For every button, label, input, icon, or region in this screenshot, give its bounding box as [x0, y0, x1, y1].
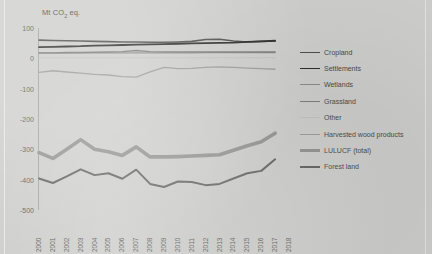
x-tick-2000: 2000	[35, 238, 42, 252]
chart-legend: CroplandSettlementsWetlandsGrasslandOthe…	[300, 44, 432, 175]
series-line-forest-land	[39, 159, 275, 187]
x-tick-2013: 2013	[216, 238, 223, 252]
series-line-lulucf-total	[39, 133, 275, 158]
x-tick-2007: 2007	[132, 238, 139, 252]
x-tick-2009: 2009	[160, 238, 167, 252]
x-tick-2018: 2018	[285, 238, 292, 252]
x-tick-2010: 2010	[174, 238, 181, 252]
legend-swatch-icon	[300, 101, 320, 102]
x-tick-2011: 2011	[188, 238, 195, 252]
legend-item-wetlands[interactable]: Wetlands	[300, 77, 432, 93]
legend-swatch-icon	[300, 84, 320, 85]
x-tick-2014: 2014	[229, 238, 236, 252]
x-tick-2003: 2003	[77, 238, 84, 252]
x-tick-2001: 2001	[49, 238, 56, 252]
x-tick-2017: 2017	[271, 238, 278, 252]
legend-swatch-icon	[300, 117, 320, 118]
legend-item-label: Grassland	[324, 98, 356, 105]
legend-swatch-icon	[300, 149, 320, 152]
x-tick-2015: 2015	[243, 238, 250, 252]
x-tick-2008: 2008	[146, 238, 153, 252]
legend-swatch-icon	[300, 68, 320, 69]
legend-item-settlements[interactable]: Settlements	[300, 60, 432, 76]
legend-item-label: Wetlands	[324, 81, 353, 88]
legend-item-lulucf-total[interactable]: LULUCF (total)	[300, 142, 432, 158]
legend-swatch-icon	[300, 134, 320, 135]
legend-item-label: Other	[324, 114, 342, 121]
series-line-harvested-wood-products	[39, 67, 275, 77]
legend-item-harvested-wood-products[interactable]: Harvested wood products	[300, 126, 432, 142]
legend-item-label: Harvested wood products	[324, 131, 403, 138]
x-tick-2004: 2004	[91, 238, 98, 252]
legend-item-grassland[interactable]: Grassland	[300, 93, 432, 109]
x-tick-2005: 2005	[104, 238, 111, 252]
x-tick-2012: 2012	[202, 238, 209, 252]
legend-swatch-icon	[300, 52, 320, 53]
legend-item-forest-land[interactable]: Forest land	[300, 159, 432, 175]
legend-item-label: Settlements	[324, 65, 361, 72]
legend-item-label: LULUCF (total)	[324, 147, 371, 154]
series-line-grassland	[39, 50, 275, 52]
chart-screenshot: Mt CO2 eq. 1000-100-200-300-400-500 2000…	[0, 0, 432, 254]
x-tick-2002: 2002	[63, 238, 70, 252]
legend-item-cropland[interactable]: Cropland	[300, 44, 432, 60]
legend-swatch-icon	[300, 166, 320, 168]
x-tick-2016: 2016	[257, 238, 264, 252]
x-tick-2006: 2006	[118, 238, 125, 252]
legend-item-label: Forest land	[324, 163, 359, 170]
legend-item-label: Cropland	[324, 49, 352, 56]
legend-item-other[interactable]: Other	[300, 110, 432, 126]
